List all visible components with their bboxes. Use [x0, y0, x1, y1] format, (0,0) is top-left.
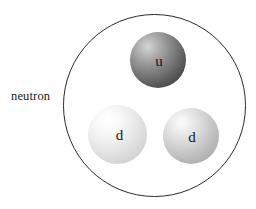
neutron-label: neutron [11, 89, 50, 103]
quark-sphere-down-right: d [163, 108, 219, 164]
quark-sphere-down-left: d [88, 105, 147, 164]
quark-sphere-up: u [130, 32, 186, 88]
neutron-quark-composition-diagram: neutron u d d [0, 0, 256, 209]
